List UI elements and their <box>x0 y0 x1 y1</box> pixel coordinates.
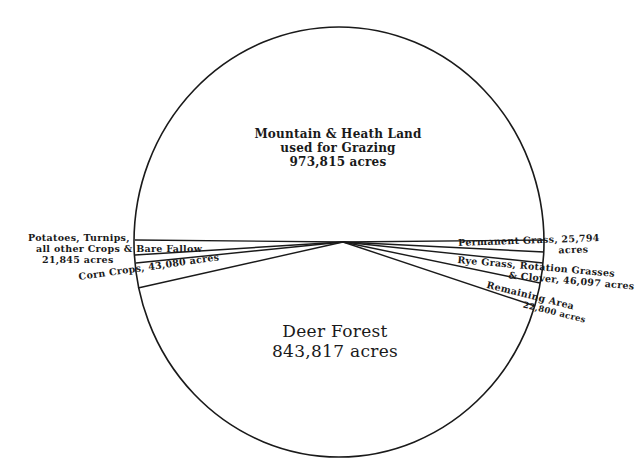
label-deer-line1: Deer Forest <box>250 322 420 342</box>
label-deer-forest: Deer Forest 843,817 acres <box>250 322 420 361</box>
label-mountain-line2: used for Grazing <box>238 142 438 156</box>
label-deer-line2: 843,817 acres <box>250 342 420 362</box>
label-mountain: Mountain & Heath Land used for Grazing 9… <box>238 128 438 169</box>
label-mountain-line3: 973,815 acres <box>238 156 438 170</box>
label-mountain-line1: Mountain & Heath Land <box>238 128 438 142</box>
